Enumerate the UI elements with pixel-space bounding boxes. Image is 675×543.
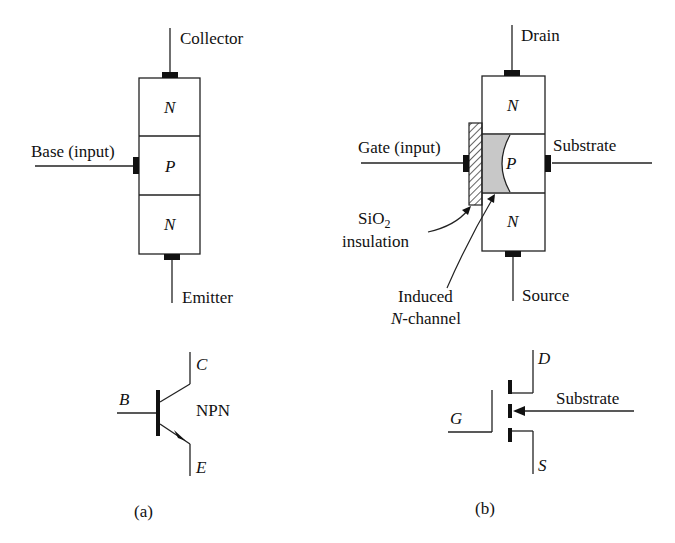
mosfet-drain-segment [508,380,512,394]
emitter-label: Emitter [182,289,233,306]
substrate-arrow [513,406,525,416]
mosfet-channel-segment [508,404,512,418]
mosfet-layer-n-top: N [507,97,518,114]
diagram-graphics [0,0,675,543]
npn-c-label: C [196,356,207,373]
n-channel-label: N-channel [391,310,461,327]
npn-b-label: B [119,391,129,408]
gate-contact [463,155,469,172]
caption-a: (a) [134,503,153,520]
gate-label: Gate (input) [358,139,441,156]
base-label: Base (input) [31,143,115,160]
sio2-subscript: 2 [384,217,390,231]
insulation-label: insulation [342,233,409,250]
mosfet-s-label: S [538,457,547,474]
mosfet-layer-p: P [506,155,516,172]
npn-type-label: NPN [196,402,230,419]
npn-emitter-arrow [174,430,186,441]
n-channel-rest: -channel [402,309,461,328]
channel-leader-arrow [447,194,495,288]
npn-symbol [117,352,190,476]
n-channel-italic: N [391,309,402,328]
collector-contact [162,72,178,78]
mosfet-source-segment [508,428,512,442]
drain-contact [504,70,520,76]
bjt-layer-n-bottom: N [164,216,175,233]
induced-label: Induced [398,288,453,305]
sio2-leader-arrow [428,206,471,232]
base-contact [133,157,139,174]
caption-b: (b) [475,500,495,517]
source-label: Source [522,287,569,304]
mosfet-substrate-label: Substrate [556,390,619,407]
npn-e-label: E [196,459,206,476]
mosfet-layer-n-bottom: N [507,213,518,230]
bjt-layer-p: P [165,158,175,175]
mosfet-d-label: D [538,350,550,367]
bjt-layer-n-top: N [164,99,175,116]
substrate-label: Substrate [553,137,616,154]
npn-base-bar [156,390,160,436]
collector-label: Collector [180,30,243,47]
drain-label: Drain [521,27,560,44]
emitter-contact [164,254,180,260]
sio2-label: SiO2 [358,210,390,230]
source-contact [505,251,521,257]
sio2-text: SiO [358,209,384,228]
substrate-contact [545,155,551,172]
mosfet-g-label: G [450,410,462,427]
sio2-insulation [469,123,482,205]
